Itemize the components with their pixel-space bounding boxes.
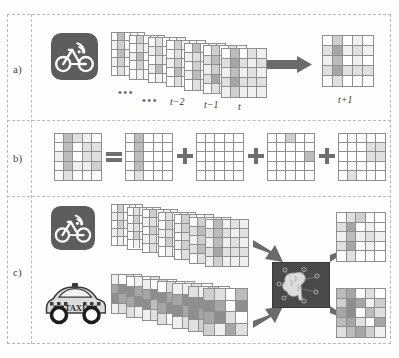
grid-cell — [367, 152, 376, 161]
grid-cell — [356, 213, 366, 223]
grid-cell — [305, 171, 314, 180]
grid-cell — [83, 143, 92, 152]
grid-cell — [55, 134, 64, 143]
grid-cell — [356, 232, 366, 242]
grid-cell — [73, 152, 82, 161]
grid-cell — [206, 152, 215, 161]
grid-cell — [154, 143, 163, 152]
grid-cell — [137, 70, 144, 79]
ellipsis-2-a: ••• — [142, 94, 158, 106]
plus-symbol-3-icon — [319, 148, 335, 168]
panel-label-b: b) — [13, 152, 22, 164]
grid-cell — [226, 301, 237, 313]
grid-cell — [222, 87, 231, 97]
grid-cell — [348, 162, 357, 171]
grid-cell — [190, 254, 198, 263]
grid-cell — [189, 320, 199, 331]
grid-cell — [240, 257, 248, 266]
grid-cell — [83, 152, 92, 161]
grid-cell — [286, 171, 295, 180]
grid-cell — [339, 152, 348, 161]
grid-cell — [277, 162, 286, 171]
bicycle-wifi-icon — [51, 33, 98, 80]
grid-cell — [257, 78, 266, 88]
taxi-icon: TAXI — [44, 282, 106, 330]
grid-cell — [92, 162, 101, 171]
grid-cell — [206, 257, 214, 266]
grid-cell — [225, 171, 234, 180]
grid-cell — [159, 221, 166, 230]
grid-cell — [193, 53, 201, 62]
grid-cell — [175, 41, 183, 50]
grid-cell — [363, 76, 373, 86]
grid-cell — [215, 312, 226, 324]
grid-cell — [333, 46, 343, 56]
grid-cell — [135, 134, 144, 143]
grid-cell — [222, 49, 231, 59]
grid-cell — [375, 299, 385, 309]
grid-cell — [206, 162, 215, 171]
grid-cell — [363, 66, 373, 76]
grid-cell — [268, 162, 277, 171]
grid-cell — [158, 293, 167, 304]
grid-cell — [375, 251, 385, 261]
stack-grid-frame — [221, 48, 267, 98]
grid-cell — [347, 289, 357, 299]
grid-cell — [356, 327, 366, 337]
grid-cell — [206, 171, 215, 180]
grid-cell — [356, 289, 366, 299]
grid-cell — [135, 143, 144, 152]
grid-cell — [366, 289, 376, 299]
grid-cell — [143, 235, 150, 243]
grid-cell — [143, 218, 150, 226]
grid-cell — [55, 152, 64, 161]
grid-cell — [185, 53, 193, 62]
grid-cell — [173, 317, 183, 328]
bicycle-wifi-icon-c — [51, 206, 95, 250]
panel-label-a: a) — [13, 63, 22, 75]
grid-cell — [343, 56, 353, 66]
grid-cell — [212, 46, 220, 55]
grid-cell — [206, 248, 214, 257]
grid-cell — [173, 306, 183, 317]
grid-cell — [92, 152, 101, 161]
right-arrow-icon — [266, 56, 312, 77]
grid-cell — [190, 218, 198, 227]
grid-cell — [236, 324, 247, 336]
grid-cell — [83, 134, 92, 143]
grid-cell — [215, 152, 224, 161]
grid-cell — [212, 75, 220, 84]
grid-cell — [112, 285, 119, 295]
grid-cell — [240, 220, 248, 229]
grid-cell — [206, 143, 215, 152]
grid-cell — [236, 301, 247, 313]
grid-cell — [137, 61, 144, 70]
grid-cell — [197, 143, 206, 152]
timestep-label-t-minus-1: t−1 — [204, 99, 219, 110]
grid-cell — [175, 59, 183, 68]
grid-cell — [223, 220, 231, 229]
grid-cell — [64, 162, 73, 171]
grid-cell — [143, 227, 150, 235]
grid-cell — [337, 223, 347, 233]
grid-cell — [156, 38, 163, 47]
grid-cell — [376, 143, 385, 152]
grid-cell — [156, 74, 163, 83]
grid-cell — [347, 251, 357, 261]
grid-cell — [64, 171, 73, 180]
grid-cell — [376, 152, 385, 161]
grid-cell — [130, 61, 137, 70]
grid-cell — [197, 134, 206, 143]
grid-cell — [64, 134, 73, 143]
grid-cell — [167, 77, 175, 86]
grid-cell — [135, 171, 144, 180]
grid-cell — [112, 304, 119, 314]
panel-divider-b-c — [7, 196, 391, 197]
term-grid-4-b — [338, 133, 386, 181]
grid-cell — [347, 308, 357, 318]
grid-cell — [126, 134, 135, 143]
grid-cell — [337, 327, 347, 337]
grid-cell — [305, 134, 314, 143]
grid-cell — [240, 248, 248, 257]
grid-cell — [356, 299, 366, 309]
